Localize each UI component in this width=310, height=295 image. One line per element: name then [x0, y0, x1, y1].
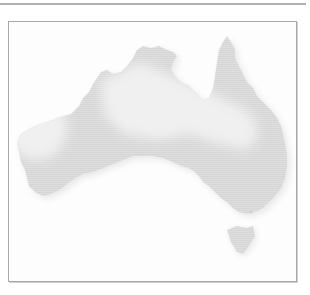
tasmania-region — [227, 226, 255, 254]
australia-map — [9, 22, 296, 281]
top-divider — [0, 3, 306, 5]
map-figure — [8, 21, 297, 282]
island — [250, 211, 253, 214]
pale-region-west — [9, 96, 67, 160]
